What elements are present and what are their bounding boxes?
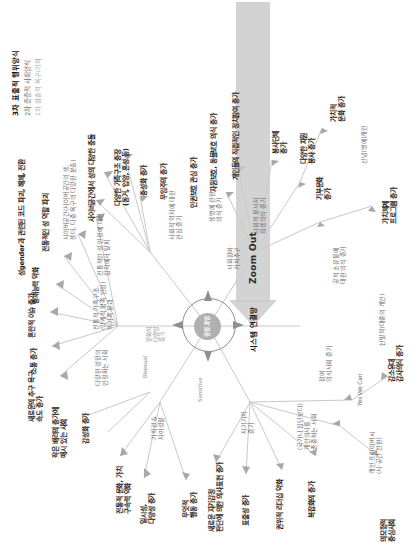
node-n06[interactable]: 전통적인 성 역할 파괴 <box>42 158 50 252</box>
node-n40[interactable]: 사회참여· 가치추구 <box>226 226 240 270</box>
node-n11[interactable]: 무임주의 증가 <box>160 144 168 200</box>
legend-item-1: 1차 심층적 욕구/가치 <box>33 50 42 116</box>
node-n25[interactable]: 표출성 증가 <box>242 470 250 526</box>
ring-spike-s <box>233 321 244 329</box>
ring-spike-e <box>204 290 212 301</box>
node-n27[interactable]: 복잡화의 증가 <box>308 458 316 518</box>
node-n30[interactable]: Yes We Can <box>356 354 363 406</box>
diagram-stage: Zoom Out 감정 과잉 시스템 연결망 Sensitive 3차 표출적 … <box>0 0 416 552</box>
node-n19[interactable]: 전통적 문화, 가치 구속력 약화 <box>116 436 132 514</box>
node-n24[interactable]: 새로운 자기감정 판단에 의한 의사표현 증가 <box>208 446 224 532</box>
node-n20[interactable]: 일시성, 다양성 증가 <box>140 470 156 524</box>
node-n09[interactable]: 다양한 가족구조 증장 (동거, 입양, 혼성 등) <box>114 118 130 206</box>
node-n47[interactable]: 공적 소유물에 대한 의식 증가 <box>332 228 346 284</box>
node-n16[interactable]: 전통적인 성 인정에 대한 집착에서 탈피 <box>96 210 110 276</box>
legend-item-2: 2차 층층적 사회양식 <box>22 50 32 116</box>
center-ring-label: 시스템 연결망 <box>247 307 258 352</box>
node-n41[interactable]: 사회적 봉사자 희생의식 증가 <box>252 178 266 234</box>
node-n18[interactable]: 문화적 다양성 증가 <box>146 308 166 342</box>
node-n39[interactable]: 생명에 관한 의식 증가 <box>208 176 222 222</box>
node-n32[interactable]: 산발적(대중의 개인) <box>378 280 385 346</box>
node-n37[interactable]: 개인들의 직접적인 정치참여 증가 <box>232 58 240 180</box>
node-n13[interactable]: 감성화 증가 <box>82 394 90 444</box>
node-n44[interactable]: 기부문화 증가 <box>316 158 332 200</box>
node-n21[interactable]: 무엇적 행동 증가 <box>182 472 198 518</box>
node-n46[interactable]: 가치체계 프로그램 증가 <box>382 174 398 224</box>
node-n28[interactable]: (국가나 집단보다) 개인의사를 존중하는 사회 <box>296 392 317 450</box>
zoom-out-label[interactable]: Zoom Out <box>248 232 258 284</box>
sensitive-label: Sensitive <box>197 377 203 402</box>
node-n08[interactable]: 사이버공간에서 성의 다양한 충돌 <box>88 98 96 222</box>
node-n35[interactable]: 인권보호 관심 증가 <box>190 124 198 208</box>
node-n05[interactable]: 성gender과 관련된 코드 파괴, 해체, 전환 <box>18 152 26 276</box>
node-n22[interactable]: 가치관 & 자아성찰 <box>150 396 164 440</box>
node-n26[interactable]: 권위적 리더십 약화 <box>276 456 284 530</box>
node-n12[interactable]: 작은 배려의 증가에 매시 있는 사회 <box>52 392 68 458</box>
node-n23[interactable]: 자기가치 증가 <box>240 396 254 434</box>
ring-spike-w <box>204 351 212 362</box>
node-n29[interactable]: 개인 프라이버시 (사·공간 전환) <box>368 414 382 474</box>
node-n42[interactable]: 봉사단체 증가 <box>272 108 288 154</box>
node-n43[interactable]: 다양한 차원 봉사 증가 <box>300 116 316 164</box>
node-n38[interactable]: 사회적 약자에 대한 관심 증가 <box>168 186 182 240</box>
ring-spike-n <box>172 321 183 329</box>
node-n33[interactable]: 의모형적 중심사회 <box>380 492 396 542</box>
center-core-label[interactable]: 감정 과잉 <box>194 313 221 340</box>
node-n48[interactable]: 신념(명예)개인 <box>360 100 367 164</box>
legend-item-3: 3차 표출적 행위양식 <box>10 50 20 116</box>
node-n34[interactable]: 참여 의식사회 증가 <box>318 330 332 382</box>
node-n14[interactable]: 다양한 성향의 인정화는 사회 <box>94 328 108 386</box>
node-n15[interactable]: 전통적 가족구조, (양계적 혈족 인정) 핵가족 붕괴 <box>92 268 113 330</box>
node-n04[interactable]: 중재능력 약화 <box>32 250 40 304</box>
diagram-canvas: Zoom Out 감정 과잉 시스템 연결망 Sensitive 3차 표출적 … <box>0 0 416 552</box>
node-n07[interactable]: 사이버공간(사이버공간의 생, 젠더, 다중 욕구의 다양한 분출) <box>62 128 76 240</box>
node-n17[interactable]: Bisexual <box>142 338 149 378</box>
node-n45[interactable]: 가치적 문화 증가 <box>330 78 346 122</box>
node-n10[interactable]: 중성화 증가 <box>140 140 148 196</box>
node-n31[interactable]: 감소유대 감사의식 증가 <box>388 324 404 382</box>
legend: 3차 표출적 행위양식 2차 층층적 사회양식 1차 심층적 욕구/가치 <box>10 50 44 116</box>
